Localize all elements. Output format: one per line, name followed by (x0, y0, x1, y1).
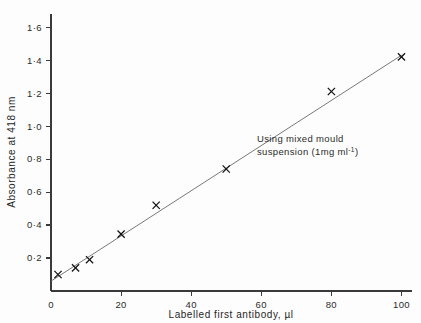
y-tick-label: 0·2 (27, 252, 42, 263)
annotation-line-1: Using mixed mould (257, 133, 344, 144)
data-point (153, 202, 160, 209)
data-point (328, 88, 335, 95)
data-point (223, 165, 230, 172)
y-tick-label: 1·2 (27, 88, 42, 99)
y-tick-label: 0·6 (27, 186, 42, 197)
x-tick-label: 20 (115, 299, 126, 310)
y-axis: 0·20·40·60·81·01·21·41·6 Absorbance at 4… (6, 14, 51, 291)
x-axis: 020406080100 Labelled first antibody, µl (48, 291, 412, 320)
annotation-line-2-prefix: suspension (1mg ml (257, 146, 348, 157)
y-tick-label: 1·4 (27, 55, 42, 66)
y-tick-label: 1·0 (27, 121, 42, 132)
x-axis-title: Labelled first antibody, µl (169, 309, 294, 320)
annotation-superscript: -1 (348, 146, 355, 153)
x-tick-label: 0 (48, 299, 54, 310)
figure-container: 0·20·40·60·81·01·21·41·6 Absorbance at 4… (0, 0, 421, 323)
y-tick-label: 0·4 (27, 219, 42, 230)
y-tick-label: 1·6 (27, 22, 42, 33)
plot-annotation: Using mixed mould suspension (1mg ml-1) (257, 133, 358, 157)
y-tick-label: 0·8 (27, 153, 42, 164)
y-axis-tick-labels: 0·20·40·60·81·01·21·41·6 (27, 22, 42, 264)
y-axis-title: Absorbance at 418 nm (6, 96, 17, 208)
annotation-line-2: suspension (1mg ml-1) (257, 146, 358, 158)
x-axis-ticks (121, 291, 401, 296)
data-point (86, 256, 93, 263)
x-tick-label: 100 (393, 299, 410, 310)
absorbance-scatter-plot: 0·20·40·60·81·01·21·41·6 Absorbance at 4… (0, 0, 421, 323)
y-axis-ticks (46, 27, 51, 258)
x-tick-label: 80 (326, 299, 337, 310)
annotation-line-2-suffix: ) (355, 146, 359, 157)
